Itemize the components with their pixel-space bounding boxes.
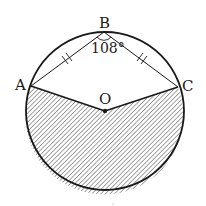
label-c: C [182, 77, 193, 95]
center-point-o [103, 109, 107, 113]
label-o: O [99, 90, 111, 108]
label-a: A [14, 76, 26, 94]
circle-diagram: B A C O 108° [0, 0, 206, 206]
stray-dot [112, 203, 113, 204]
label-b: B [99, 14, 110, 32]
angle-label-108: 108° [91, 40, 125, 56]
